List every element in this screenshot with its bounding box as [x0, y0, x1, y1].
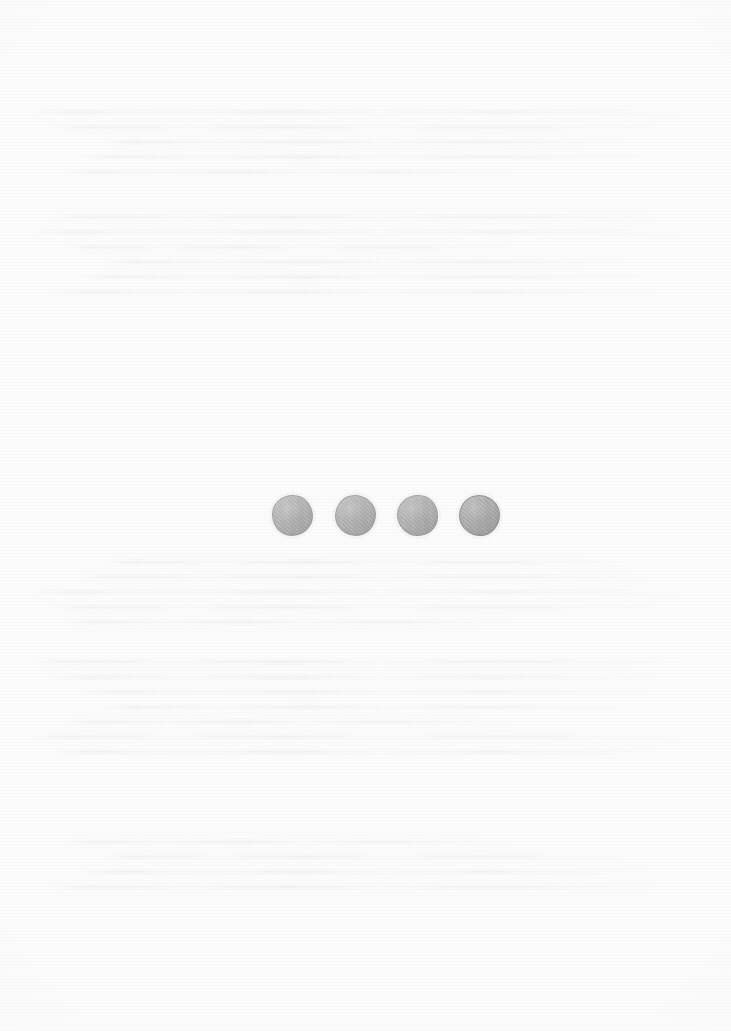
bleed-through-line	[102, 705, 643, 709]
bleed-through-line	[80, 575, 665, 579]
bleed-through-line	[66, 720, 527, 724]
circle-4	[459, 495, 500, 536]
bleed-through-line	[102, 140, 643, 144]
bleed-through-line	[51, 290, 680, 294]
bleed-through-line	[29, 590, 702, 594]
bleed-through-line	[29, 735, 702, 739]
row-of-four-circles	[272, 495, 500, 536]
bleed-through-line	[51, 885, 680, 889]
bleed-through-line	[29, 110, 702, 114]
bleed-through-line	[51, 675, 680, 679]
bleed-through-line	[51, 605, 680, 609]
bleed-through-text-block	[0, 560, 731, 635]
bleed-through-line	[80, 155, 665, 159]
bleed-through-text-block	[0, 660, 731, 765]
bleed-through-line	[66, 170, 527, 174]
bleed-through-line	[102, 260, 643, 264]
bleed-through-line	[29, 660, 702, 664]
bleed-through-line	[102, 855, 643, 859]
bleed-through-line	[80, 690, 665, 694]
bleed-through-line	[51, 125, 680, 129]
circle-1	[272, 495, 313, 536]
bleed-through-text-block	[0, 215, 731, 305]
scanned-page	[0, 0, 731, 1031]
bleed-through-line	[66, 620, 527, 624]
bleed-through-line	[80, 275, 665, 279]
bleed-through-line	[66, 840, 527, 844]
bleed-through-line	[102, 560, 643, 564]
circle-3	[397, 495, 438, 536]
bleed-through-line	[51, 215, 680, 219]
bleed-through-text-block	[0, 840, 731, 900]
bleed-through-line	[51, 750, 680, 754]
bleed-through-line	[29, 230, 702, 234]
bleed-through-text-block	[0, 110, 731, 185]
bleed-through-line	[80, 870, 665, 874]
bleed-through-line	[66, 245, 527, 249]
circle-2	[335, 495, 376, 536]
